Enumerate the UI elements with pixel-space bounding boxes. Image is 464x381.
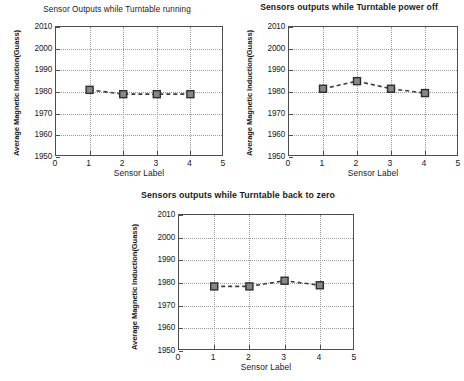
x-axis-label: Sensor Label <box>288 168 458 178</box>
y-tick-label: 2010 <box>118 210 175 219</box>
chart-title: Sensors outputs while Turntable power of… <box>236 2 462 13</box>
x-tick-label: 2 <box>246 352 251 362</box>
data-point-marker <box>187 91 194 98</box>
x-tick-label: 1 <box>211 352 216 362</box>
y-tick-label: 1960 <box>118 323 175 332</box>
x-tick-label: 4 <box>187 158 192 168</box>
y-tick-label: 1990 <box>4 65 52 74</box>
y-tick-label: 1990 <box>236 65 285 74</box>
series-line <box>90 90 191 94</box>
chart-figure-turntable-running: Sensor Outputs while Turntable running A… <box>4 4 230 186</box>
y-tick-label: 1960 <box>4 130 52 139</box>
y-tick-label: 1980 <box>236 87 285 96</box>
x-tick-label: 0 <box>286 158 291 168</box>
data-series <box>56 27 224 157</box>
chart-title: Sensor Outputs while Turntable running <box>4 4 230 15</box>
y-tick-label: 1970 <box>4 108 52 117</box>
data-point-marker <box>246 283 253 290</box>
y-tick-label: 1980 <box>118 278 175 287</box>
x-tick-label: 3 <box>281 352 286 362</box>
y-tick-label: 2000 <box>4 43 52 52</box>
y-tick-label: 1970 <box>118 300 175 309</box>
y-tick-label: 1950 <box>4 152 52 161</box>
y-tick-label: 1980 <box>4 87 52 96</box>
x-tick-label: 3 <box>388 158 393 168</box>
y-tick-label: 2010 <box>236 22 285 31</box>
x-tick-label: 1 <box>86 158 91 168</box>
x-tick-label: 5 <box>456 158 461 168</box>
data-point-marker <box>120 91 127 98</box>
x-tick-label: 5 <box>221 158 226 168</box>
x-tick-label: 5 <box>352 352 357 362</box>
plot-area <box>288 26 458 156</box>
data-point-marker <box>86 86 93 93</box>
y-tick-label: 1950 <box>118 346 175 355</box>
y-tick-label: 2010 <box>4 22 52 31</box>
y-tick-label: 2000 <box>118 232 175 241</box>
x-axis-label: Sensor Label <box>178 362 354 372</box>
y-tick-label: 1990 <box>118 255 175 264</box>
data-series <box>179 215 355 351</box>
x-tick-label: 4 <box>316 352 321 362</box>
chart-figure-turntable-power-off: Sensors outputs while Turntable power of… <box>236 2 462 186</box>
data-point-marker <box>153 91 160 98</box>
plot-area <box>55 26 223 156</box>
x-tick-label: 1 <box>320 158 325 168</box>
y-tick-label: 2000 <box>236 43 285 52</box>
x-tick-label: 2 <box>354 158 359 168</box>
chart-figure-turntable-back-to-zero: Sensors outputs while Turntable back to … <box>118 190 358 378</box>
x-tick-label: 4 <box>422 158 427 168</box>
y-tick-label: 1950 <box>236 152 285 161</box>
x-axis-label: Sensor Label <box>55 168 223 178</box>
x-tick-label: 0 <box>176 352 181 362</box>
data-point-marker <box>320 85 327 92</box>
chart-title: Sensors outputs while Turntable back to … <box>118 190 358 201</box>
series-line <box>323 81 425 93</box>
y-tick-label: 1960 <box>236 130 285 139</box>
data-point-marker <box>211 283 218 290</box>
data-series <box>289 27 459 157</box>
x-tick-label: 3 <box>153 158 158 168</box>
data-point-marker <box>354 78 361 85</box>
data-point-marker <box>388 85 395 92</box>
plot-area <box>178 214 354 350</box>
data-point-marker <box>316 282 323 289</box>
x-tick-label: 2 <box>120 158 125 168</box>
data-point-marker <box>281 277 288 284</box>
x-tick-label: 0 <box>53 158 58 168</box>
data-point-marker <box>422 90 429 97</box>
y-tick-label: 1970 <box>236 108 285 117</box>
series-line <box>214 281 320 287</box>
